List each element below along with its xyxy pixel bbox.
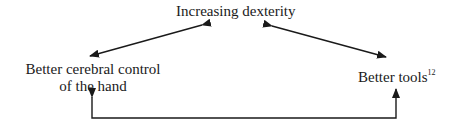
arrow-top-right [272, 26, 386, 57]
footnote-marker: 12 [428, 68, 436, 77]
node-label: Better tools [358, 69, 428, 85]
node-label-line1: Better cerebral control [24, 61, 162, 78]
node-label: Increasing dexterity [176, 3, 296, 19]
node-better-tools: Better tools12 [358, 69, 436, 86]
node-label-line2: of the hand [24, 78, 162, 95]
node-better-cerebral-control: Better cerebral control of the hand [24, 61, 162, 95]
node-increasing-dexterity: Increasing dexterity [176, 3, 296, 20]
arrow-top-left [90, 25, 202, 56]
